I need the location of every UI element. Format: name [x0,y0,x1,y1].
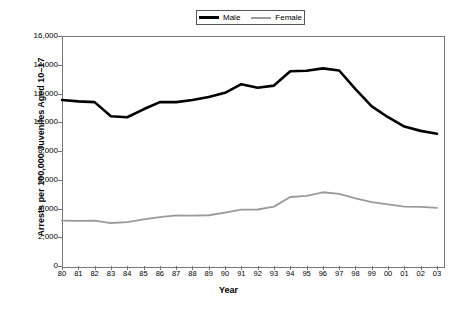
x-axis-tick-label: 82 [86,269,104,278]
x-axis-tick-mark [258,266,259,270]
x-axis-tick-mark [78,266,79,270]
x-axis-tick-label: 01 [395,269,413,278]
line-series-male [62,68,437,133]
x-axis-tick-mark [339,266,340,270]
y-axis-tick-label: 4,000 [14,205,58,213]
x-axis-tick-label: 91 [232,269,250,278]
legend-line-swatch-female [251,17,271,19]
x-axis-tick-mark [192,266,193,270]
y-axis-tick-label: 2,000 [14,233,58,241]
x-axis-tick-label: 03 [428,269,446,278]
y-axis-tick-label: 10,000 [14,118,58,126]
x-axis-tick-mark [209,266,210,270]
x-axis-tick-label: 86 [151,269,169,278]
x-axis-tick-label: 94 [281,269,299,278]
legend-line-swatch-male [199,16,219,19]
y-axis-tick-label: 14,000 [14,61,58,69]
y-axis-tick-label: 12,000 [14,90,58,98]
x-axis-tick-label: 84 [118,269,136,278]
x-axis-tick-mark [176,266,177,270]
x-axis-tick-mark [421,266,422,270]
y-axis-tick-mark [58,180,62,181]
y-axis-tick-mark [58,36,62,37]
x-axis-tick-mark [274,266,275,270]
plot-lines [62,36,443,266]
x-axis-tick-label: 99 [363,269,381,278]
chart-legend: Male Female [196,10,305,25]
y-axis-tick-mark [58,122,62,123]
x-axis-tick-label: 81 [69,269,87,278]
y-axis-tick-label: 16,000 [14,32,58,40]
line-series-female [62,192,437,223]
x-axis-tick-mark [62,266,63,270]
x-axis-tick-label: 87 [167,269,185,278]
x-axis-tick-mark [127,266,128,270]
x-axis-tick-label: 88 [183,269,201,278]
y-axis-tick-mark [58,65,62,66]
legend-entry-female: Female [251,13,302,22]
x-axis-tick-mark [355,266,356,270]
x-axis-tick-label: 90 [216,269,234,278]
x-axis-tick-label: 95 [298,269,316,278]
x-axis-tick-label: 85 [135,269,153,278]
x-axis-tick-label: 97 [330,269,348,278]
x-axis-tick-label: 00 [379,269,397,278]
y-axis-tick-mark [58,94,62,95]
x-axis-tick-mark [290,266,291,270]
x-axis-tick-mark [160,266,161,270]
y-axis-tick-label: 8,000 [14,147,58,155]
x-axis-tick-label: 93 [265,269,283,278]
x-axis-tick-label: 98 [346,269,364,278]
x-axis-tick-mark [241,266,242,270]
x-axis-tick-label: 02 [412,269,430,278]
legend-label-female: Female [275,13,302,22]
x-axis-tick-mark [95,266,96,270]
x-axis-tick-label: 80 [53,269,71,278]
y-axis-tick-labels: 02,0004,0006,0008,00010,00012,00014,0001… [10,36,58,266]
x-axis-tick-label: 89 [200,269,218,278]
legend-entry-male: Male [199,13,240,22]
x-axis-tick-mark [111,266,112,270]
chart-container: Male Female Arrests per 100,000 Juvenile… [0,0,457,311]
x-axis-title: Year [0,285,457,295]
x-axis-tick-mark [372,266,373,270]
x-axis-tick-mark [388,266,389,270]
y-axis-tick-label: 6,000 [14,176,58,184]
x-axis-tick-label: 96 [314,269,332,278]
legend-label-male: Male [223,13,240,22]
x-axis-tick-mark [144,266,145,270]
x-axis-tick-mark [323,266,324,270]
y-axis-tick-mark [58,237,62,238]
x-axis-tick-mark [225,266,226,270]
x-axis-tick-label: 92 [249,269,267,278]
x-axis-tick-mark [307,266,308,270]
x-axis-tick-mark [404,266,405,270]
x-axis-tick-mark [437,266,438,270]
x-axis-tick-labels: 8081828384858687888990919293949596979899… [0,269,457,281]
y-axis-tick-mark [58,209,62,210]
x-axis-tick-label: 83 [102,269,120,278]
y-axis-tick-mark [58,151,62,152]
